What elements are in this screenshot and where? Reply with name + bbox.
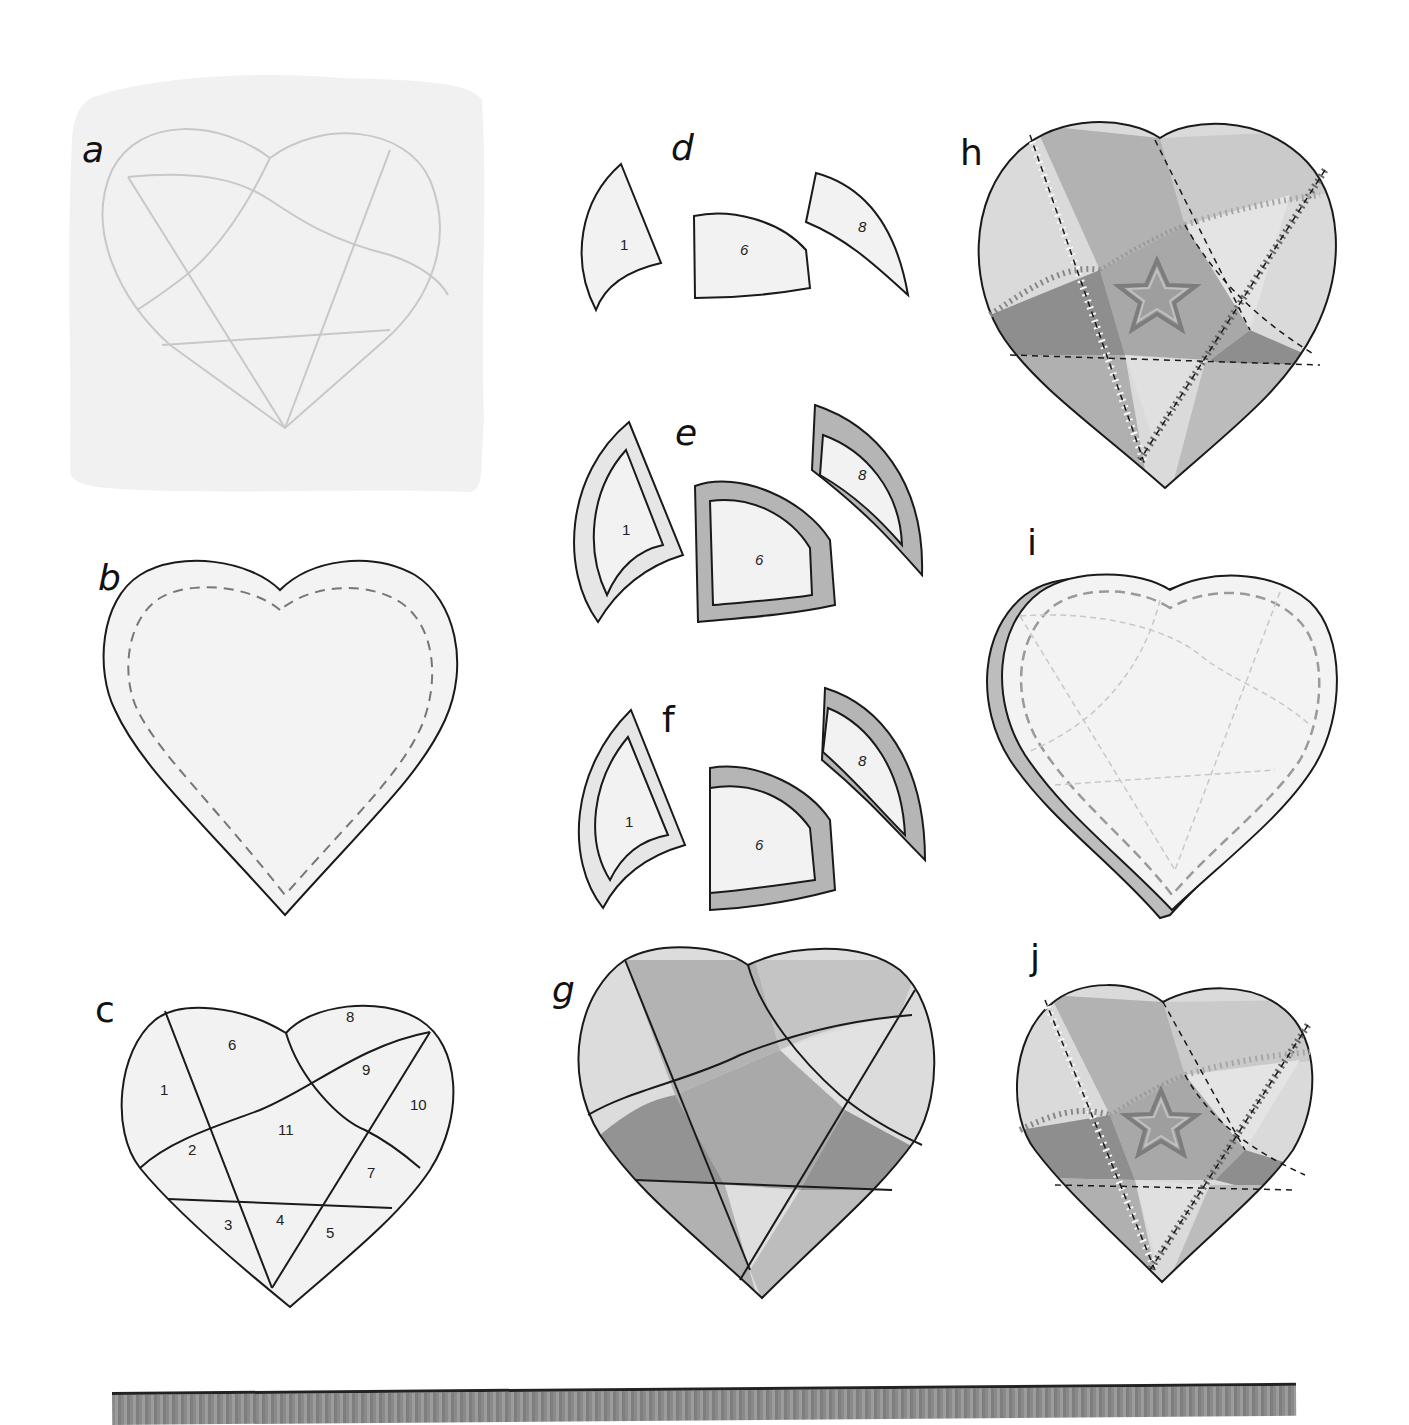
- panel-h: h: [950, 100, 1350, 500]
- panel-label-h: h: [960, 135, 983, 171]
- pieces-e: 1 6 8: [540, 390, 960, 640]
- panel-label-e: e: [675, 415, 697, 451]
- finished-heart: [990, 940, 1350, 1300]
- panel-label-f: f: [662, 702, 675, 738]
- panel-e: 1 6 8 e: [540, 390, 960, 640]
- panel-label-g: g: [552, 972, 575, 1008]
- heart-backing: [0, 530, 520, 930]
- piece-number-4: 4: [276, 1211, 284, 1228]
- piece-6-label: 6: [755, 836, 764, 853]
- piece-number-1: 1: [160, 1081, 168, 1098]
- panel-f: 1 6 8 f: [540, 680, 960, 920]
- panel-a: a: [0, 0, 520, 520]
- piece-8-label: 8: [858, 466, 867, 483]
- panel-i: i: [950, 520, 1370, 940]
- assembled-heart: [540, 930, 960, 1310]
- panel-d: 1 6 8 d: [540, 120, 960, 320]
- piece-1-label: 1: [622, 521, 630, 538]
- piece-number-5: 5: [326, 1224, 334, 1241]
- piece-6-label: 6: [755, 551, 764, 568]
- numbered-pattern: 1 2 3 4 5 6 7 8 9 10 11: [0, 980, 520, 1320]
- panel-label-i: i: [1027, 525, 1037, 561]
- panel-label-a: a: [82, 132, 104, 168]
- piece-number-6: 6: [228, 1036, 236, 1053]
- panel-label-c: c: [95, 992, 115, 1028]
- decorative-fabric-border: [112, 1383, 1296, 1425]
- layered-heart: [950, 520, 1370, 940]
- pieces-d: 1 6 8: [540, 120, 960, 320]
- panel-c: 1 2 3 4 5 6 7 8 9 10 11 c: [0, 980, 520, 1320]
- embroidered-heart: [950, 100, 1350, 500]
- panel-g: g: [540, 930, 960, 1310]
- fabric-swatch: [69, 75, 484, 492]
- piece-number-7: 7: [367, 1164, 375, 1181]
- piece-1-label: 1: [620, 236, 628, 253]
- panel-j: j: [990, 940, 1350, 1300]
- piece-8-label: 8: [858, 218, 867, 235]
- piece-number-3: 3: [224, 1216, 232, 1233]
- panel-label-d: d: [671, 130, 694, 166]
- panel-label-b: b: [98, 560, 121, 596]
- pieces-f: 1 6 8: [540, 680, 960, 920]
- piece-number-2: 2: [188, 1141, 196, 1158]
- piece-number-10: 10: [410, 1096, 427, 1113]
- piece-number-11: 11: [278, 1121, 294, 1138]
- panel-b: b: [0, 530, 520, 930]
- piece-6-label: 6: [740, 241, 749, 258]
- piece-number-9: 9: [362, 1061, 370, 1078]
- piece-number-8: 8: [346, 1008, 354, 1025]
- piece-8-label: 8: [858, 752, 867, 769]
- panel-a-drawing: [0, 0, 520, 520]
- piece-1-label: 1: [625, 813, 633, 830]
- panel-label-j: j: [1030, 940, 1040, 976]
